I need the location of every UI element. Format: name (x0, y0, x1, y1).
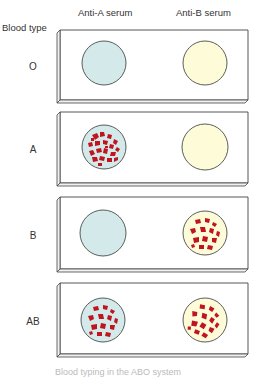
slide-type-b (57, 197, 248, 272)
slide-type-o (57, 30, 248, 103)
slide-type-ab (57, 283, 248, 357)
slide-type-a (57, 112, 248, 186)
figure-caption: Blood typing in the ABO system (55, 367, 181, 377)
